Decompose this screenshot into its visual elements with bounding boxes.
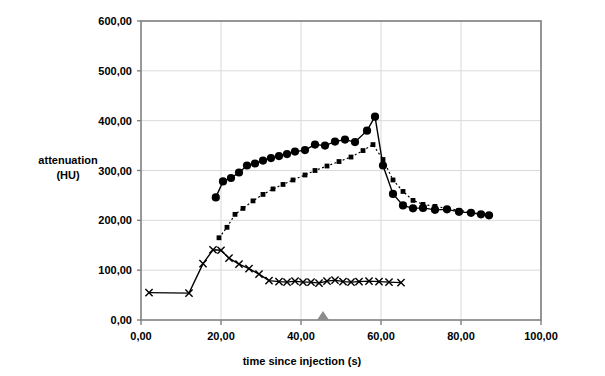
data-point: [243, 161, 251, 169]
data-point: [361, 148, 366, 153]
data-point: [409, 204, 417, 212]
data-point: [381, 157, 386, 162]
y-tick-label: 0,00: [111, 314, 132, 326]
series-vena-cava: [145, 246, 404, 297]
attenuation-time-chart: 0,00100,00200,00300,00400,00500,00600,00…: [0, 0, 605, 376]
data-point: [251, 198, 256, 203]
y-axis-title-line: attenuation: [38, 154, 98, 166]
data-point: [267, 154, 275, 162]
data-point: [217, 235, 222, 240]
y-tick-label: 600,00: [98, 15, 132, 27]
data-point: [245, 265, 252, 272]
data-point: [291, 178, 296, 183]
data-point: [233, 212, 238, 217]
data-point: [351, 138, 359, 146]
annotation-layer: [317, 311, 329, 320]
data-point: [433, 204, 438, 209]
data-point: [399, 201, 407, 209]
data-point: [255, 271, 262, 278]
data-point: [283, 150, 291, 158]
x-tick-label: 20,00: [207, 330, 235, 342]
data-point: [281, 182, 286, 187]
y-axis-title: attenuation(HU): [38, 154, 98, 181]
chart-container: 0,00100,00200,00300,00400,00500,00600,00…: [0, 0, 605, 376]
x-tick-label: 60,00: [367, 330, 395, 342]
data-point: [341, 136, 349, 144]
y-axis-ticks: 0,00100,00200,00300,00400,00500,00600,00: [98, 15, 141, 326]
data-point: [457, 208, 462, 213]
data-point: [235, 261, 242, 268]
grid-lines: [141, 21, 541, 320]
x-tick-label: 0,00: [130, 330, 151, 342]
data-point: [371, 142, 376, 147]
x-tick-label: 100,00: [524, 330, 558, 342]
data-point: [199, 260, 206, 267]
data-point: [271, 187, 276, 192]
data-point: [421, 202, 426, 207]
data-point: [487, 213, 492, 218]
data-point: [241, 206, 246, 211]
x-tick-label: 80,00: [447, 330, 475, 342]
data-point: [291, 147, 299, 155]
data-point: [219, 177, 227, 185]
injection-end-marker: [317, 311, 329, 320]
data-point: [389, 190, 397, 198]
data-point: [311, 140, 319, 148]
data-point: [321, 141, 329, 149]
data-point: [411, 198, 416, 203]
x-axis-ticks: 0,0020,0040,0060,0080,00100,00: [130, 320, 558, 342]
data-point: [259, 156, 267, 164]
data-point: [251, 159, 259, 167]
series-aorta: [212, 113, 493, 220]
y-axis-title-line: (HU): [56, 169, 80, 181]
x-tick-label: 40,00: [287, 330, 315, 342]
x-axis-title-label: time since injection (s): [243, 355, 362, 367]
y-tick-label: 300,00: [98, 165, 132, 177]
data-point: [301, 146, 309, 154]
data-point: [331, 137, 339, 145]
series-pulmonary: [217, 142, 492, 240]
data-point: [227, 174, 235, 182]
y-tick-label: 100,00: [98, 264, 132, 276]
data-point: [391, 178, 396, 183]
data-point: [325, 164, 330, 169]
data-point: [275, 152, 283, 160]
data-point: [313, 168, 318, 173]
data-point: [337, 159, 342, 164]
data-point: [225, 225, 230, 230]
data-point: [371, 113, 379, 121]
data-point: [401, 189, 406, 194]
data-series-layer: [145, 113, 493, 297]
data-point: [363, 127, 371, 135]
data-point: [469, 210, 474, 215]
series-line: [149, 250, 401, 293]
data-point: [445, 206, 450, 211]
y-tick-label: 200,00: [98, 214, 132, 226]
data-point: [225, 255, 232, 262]
data-point: [212, 193, 220, 201]
data-point: [303, 173, 308, 178]
y-tick-label: 500,00: [98, 65, 132, 77]
data-point: [235, 168, 243, 176]
data-point: [349, 155, 354, 160]
data-point: [479, 211, 484, 216]
y-tick-label: 400,00: [98, 115, 132, 127]
data-point: [261, 192, 266, 197]
